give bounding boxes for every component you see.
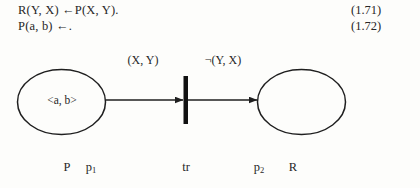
token-p1: <a, b> [22,94,102,106]
place-label-p1: p1 [80,160,102,175]
predicate-label-R: R [284,160,302,175]
arc-label-p1-to-tr: (X, Y) [112,53,174,68]
arc-label-tr-to-p2: ¬(Y, X) [190,53,256,68]
place-label-p2: p2 [248,160,270,175]
place-label-p1-subscript: 1 [92,165,96,175]
predicate-label-P: P [58,160,76,175]
transition-bar-tr [184,76,189,124]
document-page: R(Y, X) ←P(X, Y). (1.71) P(a, b) ←. (1.7… [0,0,420,188]
transition-label-tr: tr [175,160,197,175]
place-label-p2-subscript: 2 [260,165,264,175]
place-node-p2 [258,70,346,135]
